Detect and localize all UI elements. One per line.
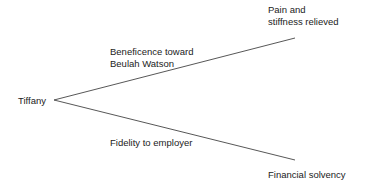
upper-outcome-label-line1: Pain and — [268, 4, 306, 15]
lower-outcome-label: Financial solvency — [268, 169, 346, 180]
edge-lower — [54, 100, 295, 160]
upper-edge-label-line1: Beneficence toward — [110, 46, 193, 57]
upper-edge-label-line2: Beulah Watson — [110, 58, 174, 69]
tree-edges — [0, 0, 377, 181]
lower-edge-label: Fidelity to employer — [110, 137, 192, 148]
upper-outcome-label-line2: stiffness relieved — [268, 16, 339, 27]
decision-tree-diagram: Tiffany Beneficence toward Beulah Watson… — [0, 0, 377, 181]
root-node-label: Tiffany — [18, 95, 46, 106]
